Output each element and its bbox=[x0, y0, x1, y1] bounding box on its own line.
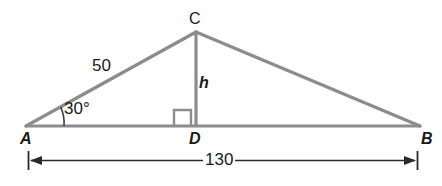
segment-CB bbox=[196, 32, 420, 126]
angle-label-A: 30° bbox=[64, 100, 90, 117]
segment-AC bbox=[26, 32, 196, 126]
dimension-arrowhead-left bbox=[30, 156, 42, 165]
right-angle-marker-icon bbox=[174, 110, 191, 126]
dimension-label-130: 130 bbox=[203, 151, 235, 168]
vertex-label-B: B bbox=[421, 131, 433, 147]
altitude-label-h: h bbox=[199, 75, 209, 91]
side-length-label-AC: 50 bbox=[92, 57, 111, 74]
vertex-label-A: A bbox=[20, 131, 32, 147]
vertex-label-C: C bbox=[189, 11, 201, 27]
dimension-arrowhead-right bbox=[404, 156, 416, 165]
geometry-figure: C A D B 50 30° h 130 bbox=[0, 0, 442, 186]
vertex-label-D: D bbox=[189, 131, 201, 147]
